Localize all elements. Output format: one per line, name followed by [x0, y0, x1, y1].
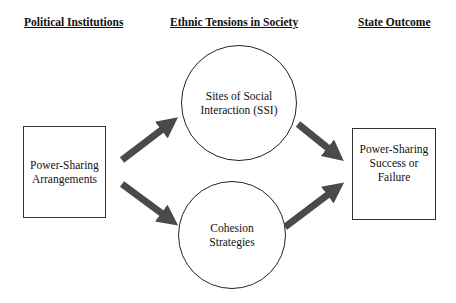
arrow-cohesion-to-outcome [285, 190, 334, 227]
node-label: Cohesion Strategies [209, 221, 254, 249]
arrow-power-sharing-to-ssi [122, 125, 168, 160]
node-label: Sites of Social Interaction (SSI) [201, 89, 278, 117]
node-label: Power-Sharing Arrangements [30, 158, 99, 186]
node-power-sharing-outcome: Power-Sharing Success or Failure [352, 128, 436, 220]
node-cohesion-strategies: Cohesion Strategies [178, 181, 286, 289]
node-power-sharing-arrangements: Power-Sharing Arrangements [23, 126, 106, 218]
arrow-ssi-to-outcome [298, 124, 334, 153]
arrow-power-sharing-to-cohesion [122, 184, 168, 218]
node-label: Power-Sharing Success or Failure [360, 142, 429, 184]
node-sites-of-social-interaction: Sites of Social Interaction (SSI) [181, 45, 297, 161]
